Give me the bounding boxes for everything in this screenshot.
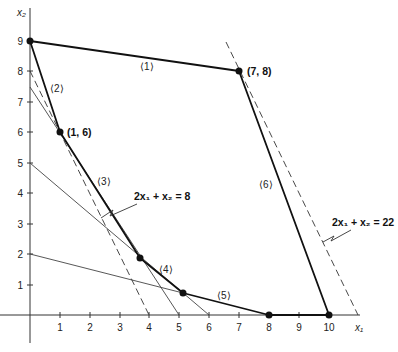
constraint-label-1: ⟨1⟩	[140, 61, 154, 72]
vertex-1-6	[57, 129, 64, 136]
lp-feasible-region-diagram: 1 2 3 4 5 6 7 8 9 10 x₁ 1 2 3 4 5 6 7 8 …	[0, 0, 398, 352]
y-tick-label: 4	[17, 188, 23, 199]
constraint-label-5: ⟨5⟩	[217, 290, 231, 301]
vertex-10-0	[326, 312, 333, 319]
y-axis-label: x₂	[16, 7, 26, 18]
objective-lines	[30, 42, 358, 315]
x-tick-label: 7	[236, 322, 242, 333]
x-tick-label: 5	[176, 322, 182, 333]
x-tick-label: 10	[323, 322, 335, 333]
vertex-b	[180, 290, 187, 297]
vertex-0-9	[27, 38, 34, 45]
x-tick-label: 3	[117, 322, 123, 333]
x-tick-label: 9	[296, 322, 302, 333]
y-tick-labels: 1 2 3 4 5 6 7 8 9	[17, 36, 23, 291]
y-tick-label: 3	[17, 219, 23, 230]
y-tick-label: 7	[17, 97, 23, 108]
constraint-label-4: ⟨4⟩	[159, 264, 173, 275]
feasible-region-boundary	[30, 41, 329, 315]
x-tick-label: 8	[266, 322, 272, 333]
vertex-7-8	[236, 68, 243, 75]
vertices	[27, 38, 333, 319]
constraint-label-6: ⟨6⟩	[259, 179, 273, 190]
x-tick-label: 2	[87, 322, 93, 333]
objective-line-8	[30, 71, 149, 315]
vertex-8-0	[266, 312, 273, 319]
equation-label-22: 2x₁ + x₂ = 22	[332, 216, 394, 228]
x-tick-labels: 1 2 3 4 5 6 7 8 9 10	[57, 322, 335, 333]
x-tick-label: 4	[146, 322, 152, 333]
x-tick-label: 6	[206, 322, 212, 333]
constraint-label-2: ⟨2⟩	[50, 83, 64, 94]
vertex-a	[137, 255, 144, 262]
x-axis-label: x₁	[354, 322, 363, 333]
y-tick-label: 9	[17, 36, 23, 47]
equation-label-8: 2x₁ + x₂ = 8	[134, 190, 190, 202]
leader-eq22	[323, 230, 351, 242]
objective-line-22	[226, 42, 358, 315]
y-tick-label: 8	[17, 66, 23, 77]
x-tick-label: 1	[57, 322, 63, 333]
y-tick-label: 1	[17, 280, 23, 291]
y-tick-label: 6	[17, 127, 23, 138]
point-label-1-6: (1, 6)	[67, 126, 92, 138]
y-tick-label: 5	[17, 158, 23, 169]
point-label-7-8: (7, 8)	[247, 65, 272, 77]
y-tick-label: 2	[17, 249, 23, 260]
constraint-label-3: ⟨3⟩	[97, 176, 111, 187]
